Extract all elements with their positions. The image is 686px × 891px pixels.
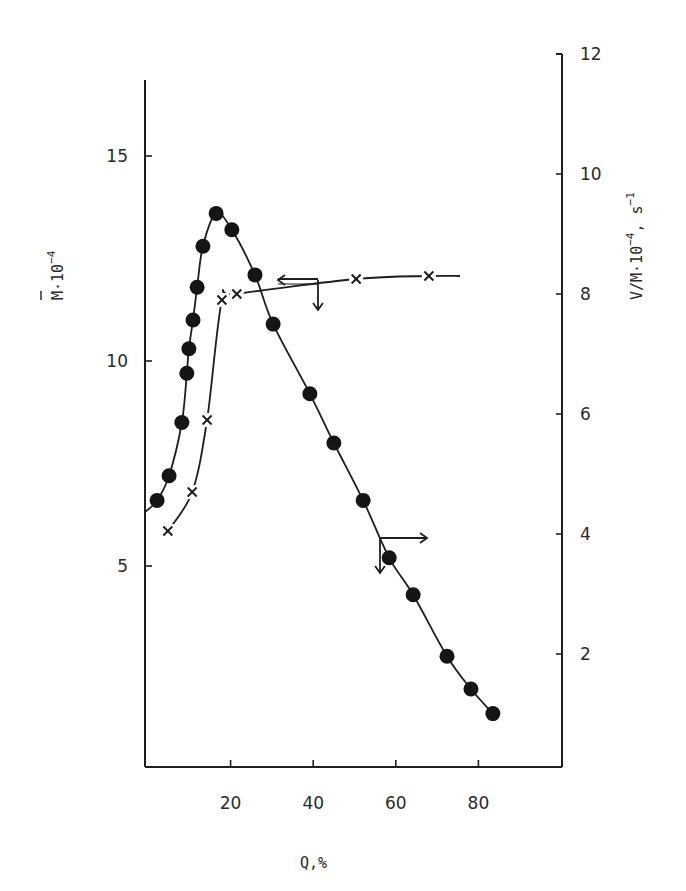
right-y-tick-label: 6 xyxy=(580,404,591,424)
data-point-circle xyxy=(247,267,262,282)
data-point-circle xyxy=(174,415,189,430)
x-tick-label: 20 xyxy=(220,793,242,813)
right-axis-label-exp: −4 xyxy=(624,232,637,246)
data-point-x xyxy=(161,524,175,538)
data-point-x xyxy=(185,485,199,499)
data-point-circle xyxy=(195,239,210,254)
data-point-circle xyxy=(440,649,455,664)
x-axis-label: Q,% xyxy=(300,854,327,872)
data-point-x xyxy=(422,269,436,283)
data-point-x xyxy=(349,272,363,286)
arrow-to-left-axis xyxy=(278,275,323,310)
data-point-circle xyxy=(181,341,196,356)
data-point-circle xyxy=(266,317,281,332)
left-y-tick-label: 5 xyxy=(117,556,128,576)
data-point-circle xyxy=(485,706,500,721)
left-axis-label-main: M·10 xyxy=(49,264,67,300)
arrow-to-right-axis xyxy=(375,533,427,573)
data-point-circle xyxy=(162,468,177,483)
x-tick-label: 40 xyxy=(302,793,324,813)
data-point-circle xyxy=(463,682,478,697)
right-y-tick-label: 4 xyxy=(580,524,591,544)
svg-text:V/M·10−4, s−1: V/M·10−4, s−1 xyxy=(624,192,646,300)
left-y-tick-label: 15 xyxy=(106,146,128,166)
data-point-circle xyxy=(150,493,165,508)
data-point-circle xyxy=(209,206,224,221)
data-point-circle xyxy=(382,550,397,565)
data-point-x xyxy=(215,293,229,307)
data-point-circle xyxy=(356,493,371,508)
data-point-x xyxy=(200,413,214,427)
right-y-tick-label: 8 xyxy=(580,284,591,304)
left-y-tick-label: 10 xyxy=(106,351,128,371)
right-y-tick-label: 10 xyxy=(580,164,602,184)
x-tick-label: 80 xyxy=(468,793,490,813)
data-point-circle xyxy=(224,222,239,237)
data-point-circle xyxy=(179,366,194,381)
left-axis-label: M·10−4 xyxy=(41,250,67,300)
data-point-circle xyxy=(326,436,341,451)
data-point-circle xyxy=(190,280,205,295)
data-point-x xyxy=(230,287,244,301)
chart: 204060805101524681012 Q,% M·10−4 V/M·10−… xyxy=(0,0,686,891)
annotations xyxy=(278,275,427,573)
svg-text:M·10−4: M·10−4 xyxy=(45,250,67,300)
right-axis-label-tail-exp: −1 xyxy=(624,192,637,205)
right-y-tick-label: 2 xyxy=(580,644,591,664)
data-point-circle xyxy=(406,587,421,602)
x-tick-label: 60 xyxy=(385,793,407,813)
right-axis-label: V/M·10−4, s−1 xyxy=(624,192,646,300)
data-point-circle xyxy=(186,313,201,328)
right-axis-label-tail: , s xyxy=(628,205,646,232)
right-y-tick-label: 12 xyxy=(580,44,602,64)
data-point-circle xyxy=(302,386,317,401)
left-axis-label-exp: −4 xyxy=(45,250,58,264)
right-axis-label-main: V/M·10 xyxy=(628,246,646,300)
